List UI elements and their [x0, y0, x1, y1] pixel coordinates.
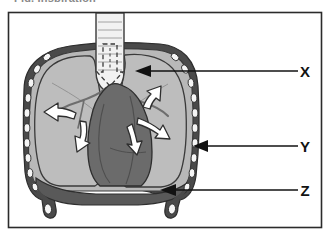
rib-segment	[24, 124, 30, 133]
figure-stage: Fig. Inspiration	[0, 0, 332, 240]
rib-segment	[191, 154, 197, 163]
clipped-caption-text: Fig. Inspiration	[14, 0, 204, 2]
rib-segment	[24, 139, 30, 148]
rib-segment	[191, 94, 197, 103]
rib-segment	[25, 154, 31, 163]
label-z: Z	[300, 182, 309, 199]
rib-segment	[192, 109, 198, 118]
rib-segment	[192, 124, 198, 133]
label-y: Y	[300, 138, 310, 155]
rib-segment	[189, 168, 196, 177]
trachea	[96, 13, 124, 90]
rib-segment	[24, 109, 30, 118]
respiratory-diagram-svg: X Y Z	[0, 0, 332, 240]
rib-segment	[25, 94, 31, 103]
rib-segment	[27, 168, 34, 177]
label-x: X	[300, 63, 310, 80]
